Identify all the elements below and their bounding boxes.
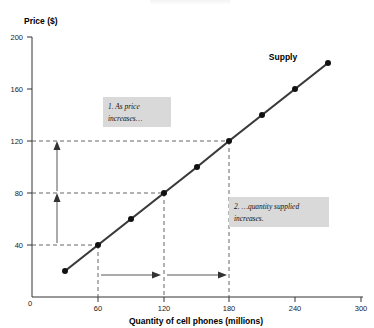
x-tick-label-120: 120: [158, 304, 171, 313]
x-tick-label-300: 300: [355, 304, 368, 313]
data-point-240-160: [292, 86, 298, 92]
y-tick-label-160: 160: [10, 85, 23, 94]
x-axis-ticks: 0 60 120 180 240 300: [28, 297, 367, 313]
x-tick-label-240: 240: [289, 304, 302, 313]
callout-quantity-supplied-line1: 2. …quantity supplied: [234, 202, 299, 211]
x-tick-label-180: 180: [223, 304, 236, 313]
x-tick-label-60: 60: [94, 304, 102, 313]
quantity-arrow-120-to-180-head: [218, 272, 227, 279]
y-tick-label-120: 120: [10, 137, 23, 146]
callout-quantity-supplied: 2. …quantity supplied increases.: [229, 197, 329, 227]
data-point-150-100: [194, 164, 200, 170]
callout-price-increases: 1. As price increases…: [103, 97, 171, 127]
data-point-120-80: [161, 190, 167, 196]
callout-price-increases-line2: increases…: [108, 114, 143, 123]
y-tick-label-200: 200: [10, 33, 23, 42]
x-tick-label-0: 0: [28, 299, 32, 308]
y-tick-label-80: 80: [15, 189, 23, 198]
y-axis-title: Price ($): [24, 16, 58, 26]
data-point-270-180: [325, 60, 331, 66]
price-arrow-40-to-80-head: [54, 141, 61, 150]
data-point-60-40: [95, 242, 101, 248]
price-direction-arrows: [54, 141, 61, 243]
callout-price-increases-line1: 1. As price: [108, 102, 140, 111]
cropped-title-remnant: [150, 0, 230, 5]
supply-curve-chart: Price ($) 200 160 120 80 40 0 60 120: [0, 0, 374, 328]
supply-series-label: Supply: [269, 52, 298, 62]
price-arrow-80-to-120-head: [54, 193, 61, 202]
data-point-30-20: [62, 268, 68, 274]
x-axis-title: Quantity of cell phones (millions): [129, 316, 263, 326]
data-point-210-140: [259, 112, 265, 118]
quantity-arrow-60-to-120-head: [152, 272, 161, 279]
data-point-180-120: [226, 138, 232, 144]
y-tick-label-40: 40: [15, 241, 23, 250]
callout-quantity-supplied-line2: increases.: [234, 214, 264, 223]
chart-canvas: Price ($) 200 160 120 80 40 0 60 120: [0, 0, 374, 328]
data-point-90-60: [128, 216, 134, 222]
y-axis-ticks: 200 160 120 80 40: [10, 33, 32, 250]
